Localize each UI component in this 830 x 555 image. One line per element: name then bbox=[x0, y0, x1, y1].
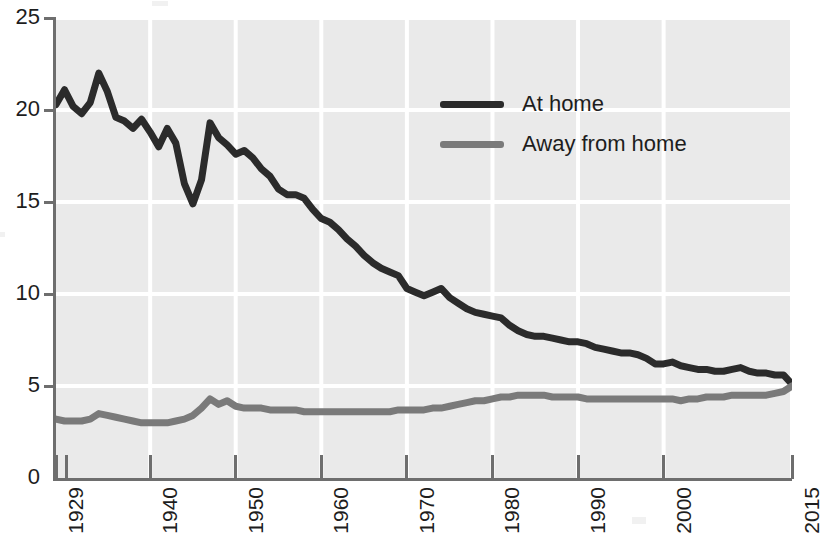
x-axis-tick bbox=[234, 455, 237, 479]
x-axis-tick bbox=[662, 455, 665, 479]
y-axis-tick bbox=[44, 109, 56, 112]
x-axis-tick-label: 1929 bbox=[65, 487, 86, 534]
x-axis-tick bbox=[405, 455, 408, 479]
x-axis-tick bbox=[55, 455, 58, 479]
series-line-away-from-home bbox=[56, 386, 792, 423]
y-axis-tick bbox=[44, 201, 56, 204]
y-axis-tick-label: 25 bbox=[2, 6, 40, 28]
x-axis-tick-label: 1950 bbox=[245, 487, 266, 534]
x-axis-tick-label: 1940 bbox=[159, 487, 180, 534]
x-axis-tick bbox=[791, 455, 794, 479]
x-axis-tick-label: 2000 bbox=[673, 487, 694, 534]
x-axis-tick bbox=[577, 455, 580, 479]
chart-figure: 0510152025 19291940195019601970198019902… bbox=[0, 0, 830, 555]
x-axis-tick bbox=[149, 455, 152, 479]
y-axis-tick bbox=[44, 293, 56, 296]
y-axis-tick bbox=[44, 385, 56, 388]
y-axis-tick-label: 15 bbox=[2, 190, 40, 212]
y-axis-tick-label: 5 bbox=[2, 374, 40, 396]
legend-item-label: At home bbox=[522, 93, 604, 115]
scan-artifact bbox=[632, 517, 646, 524]
legend-item-label: Away from home bbox=[522, 133, 687, 155]
legend-item: Away from home bbox=[440, 124, 687, 164]
x-axis-tick-label: 1990 bbox=[587, 487, 608, 534]
y-axis-tick-label: 10 bbox=[2, 282, 40, 304]
y-axis-tick-label: 20 bbox=[2, 98, 40, 120]
x-axis-tick-label: 1970 bbox=[416, 487, 437, 534]
chart-legend: At homeAway from home bbox=[440, 84, 687, 164]
x-axis-tick bbox=[320, 455, 323, 479]
x-axis-tick-origin-inner bbox=[65, 455, 68, 479]
y-axis-line bbox=[53, 18, 56, 481]
x-axis-tick-label: 1960 bbox=[330, 487, 351, 534]
y-axis-tick-label: 0 bbox=[2, 466, 40, 488]
legend-line-swatch bbox=[440, 141, 504, 148]
y-axis-labels: 0510152025 bbox=[0, 0, 40, 500]
x-axis-tick-label: 1980 bbox=[501, 487, 522, 534]
x-axis-tick bbox=[491, 455, 494, 479]
legend-item: At home bbox=[440, 84, 687, 124]
x-axis-line bbox=[53, 478, 792, 481]
legend-line-swatch bbox=[440, 101, 504, 108]
y-axis-tick bbox=[44, 17, 56, 20]
scan-artifact bbox=[152, 1, 168, 6]
x-axis-tick-label: 2015 bbox=[801, 487, 822, 534]
